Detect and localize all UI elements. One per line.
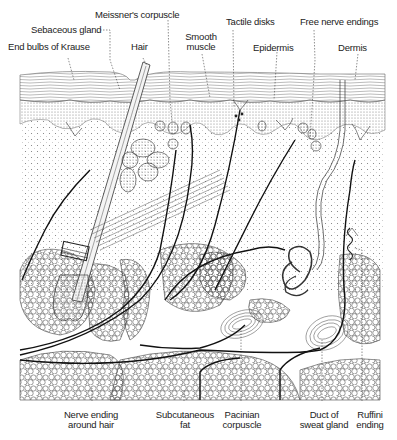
label-sebaceous-gland: Sebaceous gland bbox=[31, 25, 101, 35]
label-meissners-corpuscle: Meissner's corpuscle bbox=[95, 10, 179, 20]
label-pacinian-corpuscle: Pacinian corpuscle bbox=[212, 410, 272, 430]
label-duct-of-sweat-gland: Duct of sweat gland bbox=[293, 410, 355, 430]
label-ruffini-line2: ending bbox=[350, 420, 390, 430]
label-nerve-ending-line2: around hair bbox=[55, 420, 127, 430]
label-ruffini-ending: Ruffini ending bbox=[350, 410, 390, 430]
label-sweat-duct-line2: sweat gland bbox=[293, 420, 355, 430]
label-nerve-ending-around-hair: Nerve ending around hair bbox=[55, 410, 127, 430]
label-end-bulbs-of-krause: End bulbs of Krause bbox=[8, 42, 90, 52]
label-smooth-muscle: Smooth muscle bbox=[184, 32, 218, 52]
label-pacinian-line2: corpuscle bbox=[212, 420, 272, 430]
label-epidermis: Epidermis bbox=[253, 43, 293, 53]
label-dermis: Dermis bbox=[338, 43, 367, 53]
label-smooth-muscle-line2: muscle bbox=[184, 42, 218, 52]
label-free-nerve-endings: Free nerve endings bbox=[300, 17, 378, 27]
label-hair: Hair bbox=[131, 42, 148, 52]
label-tactile-disks: Tactile disks bbox=[226, 17, 275, 27]
skin-diagram-drawing bbox=[0, 0, 397, 440]
